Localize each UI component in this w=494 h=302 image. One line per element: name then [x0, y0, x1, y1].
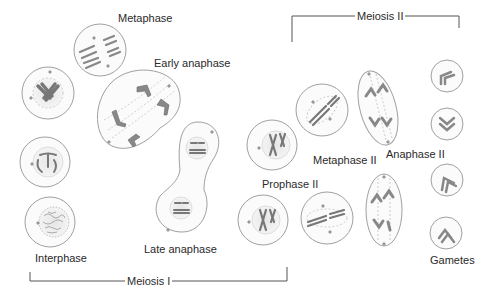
- cell-early-anaphase: [97, 70, 180, 148]
- cell-anaphase-ii-top: [351, 67, 405, 150]
- cell-prophase-ii-top: [247, 120, 297, 170]
- label-metaphase-ii: Metaphase II: [313, 154, 377, 166]
- cell-gamete-1: [431, 60, 463, 92]
- cell-metaphase-ii-top: [296, 84, 348, 136]
- cell-interphase: [25, 197, 75, 247]
- label-interphase: Interphase: [35, 252, 87, 264]
- cell-prophase-ii-bottom: [238, 195, 288, 245]
- label-metaphase: Metaphase: [118, 12, 172, 24]
- cell-anaphase-ii-bottom: [366, 174, 402, 246]
- cell-gamete-3: [431, 164, 463, 196]
- label-early-anaphase: Early anaphase: [154, 57, 230, 69]
- label-meiosis-i: Meiosis I: [125, 275, 172, 287]
- cell-metaphase: [74, 24, 126, 76]
- cell-prophase-i: [22, 67, 74, 119]
- label-gametes: Gametes: [430, 254, 475, 266]
- cell-metaphase-ii-bottom: [301, 192, 353, 244]
- cell-late-anaphase: [156, 122, 219, 232]
- label-prophase-ii: Prophase II: [262, 178, 318, 190]
- cell-early-prophase: [20, 137, 70, 187]
- cell-gamete-2: [431, 108, 463, 140]
- label-meiosis-ii: Meiosis II: [355, 10, 405, 22]
- label-anaphase-ii: Anaphase II: [386, 148, 445, 160]
- label-late-anaphase: Late anaphase: [144, 243, 217, 255]
- cell-gamete-4: [430, 217, 462, 249]
